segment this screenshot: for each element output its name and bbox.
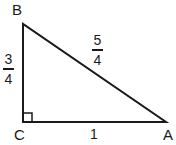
vertex-label-a: A [163,127,173,142]
side-bc-numerator: 3 [5,52,13,66]
side-ca-length: 1 [90,127,98,141]
side-ba-numerator: 5 [94,33,102,47]
side-ba-denominator: 4 [94,53,102,67]
side-bc-length: 3 4 [3,52,14,86]
triangle-figure [0,0,176,145]
fraction-bar [92,49,103,51]
side-ba-length: 5 4 [92,33,103,67]
fraction-bar [3,68,14,70]
vertex-label-b: B [12,2,22,17]
right-angle-marker [23,113,32,122]
side-bc-denominator: 4 [5,72,13,86]
vertex-label-c: C [14,127,25,142]
